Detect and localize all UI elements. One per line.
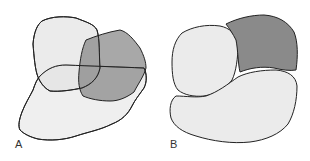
panel-b bbox=[170, 15, 297, 143]
panel-b-label: B bbox=[170, 138, 177, 150]
panel-a-label: A bbox=[15, 138, 22, 150]
panel-a bbox=[19, 17, 146, 140]
diagram-canvas bbox=[0, 0, 310, 161]
